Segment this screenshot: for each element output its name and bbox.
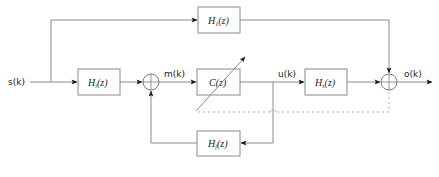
block-secondary-path-arg: (z)	[325, 77, 336, 89]
signal-label-input: s(k)	[8, 77, 25, 87]
block-secondary-path: Hs(z)	[305, 69, 347, 95]
summing-junction-1	[143, 74, 159, 90]
block-controller: C(z)	[197, 69, 240, 95]
wire-h1-to-sum2	[240, 20, 389, 73]
summing-junction-2	[381, 74, 397, 90]
svg-text:Hf(z): Hf(z)	[207, 138, 228, 150]
block-direct-path-arg: (z)	[218, 15, 229, 27]
svg-text:Hi(z): Hi(z)	[87, 77, 108, 89]
block-feedback-path-arg: (z)	[217, 138, 228, 150]
svg-text:H1(z): H1(z)	[207, 15, 229, 27]
signal-label-o: o(k)	[404, 69, 422, 79]
block-input-filter-arg: (z)	[97, 77, 108, 89]
block-direct-path: H1(z)	[198, 7, 240, 33]
svg-text:Hs(z): Hs(z)	[314, 77, 336, 89]
signal-label-m: m(k)	[164, 69, 185, 79]
block-feedback-path: Hf(z)	[197, 131, 240, 156]
block-input-filter: Hi(z)	[78, 69, 120, 95]
wire-hf-to-sum1	[151, 91, 197, 143]
signal-label-u: u(k)	[278, 69, 296, 79]
block-diagram: s(k) H1(z) Hi(z) m(k) C(z) u(k)	[0, 0, 439, 177]
